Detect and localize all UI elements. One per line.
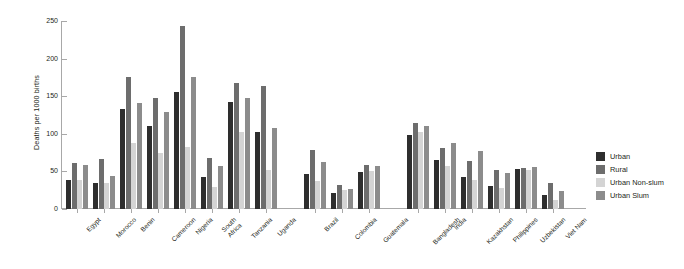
bar-egypt-rural [72,163,77,209]
bar-tanzania-urban-non-slum [239,132,244,209]
bar-nigeria-urban-non-slum [185,147,190,209]
x-tick-tanzania [239,209,240,213]
bar-egypt-urban [66,180,71,209]
country-bars-uganda [255,21,277,209]
bar-bangladesh-urban-non-slum [418,132,423,209]
country-bars-south-africa [201,21,223,209]
country-bars-guatemala [358,21,380,209]
bar-brazil-rural [310,150,315,209]
bar-cameroon-urban-slum [164,112,169,209]
country-bars-cameroon [147,21,169,209]
bar-colombia-urban [331,193,336,209]
x-label-benin: Benin [139,216,156,233]
bar-colombia-urban-slum [348,189,353,209]
country-bars-philippines [488,21,510,209]
bar-benin-rural [126,77,131,209]
x-label-uganda: Uganda [276,216,298,238]
bar-kazakhstan-rural [467,161,472,209]
bar-india-rural [440,148,445,209]
bar-india-urban [434,160,439,209]
bar-egypt-urban-slum [83,165,88,209]
legend-item-rural: Rural [596,163,664,175]
plot-area [62,21,586,209]
x-tick-nigeria [185,209,186,213]
bar-uzbekistan-rural [521,168,526,209]
y-tick-label-200: 200 [30,55,58,62]
y-tick-label-50: 50 [30,167,58,174]
country-bars-uzbekistan [515,21,537,209]
country-bars-nigeria [174,21,196,209]
bar-bangladesh-urban [407,135,412,209]
country-bars-egypt [66,21,88,209]
x-label-guatemala: Guatemala [381,216,409,244]
bar-viet-nam-rural [548,183,553,209]
bar-kazakhstan-urban [461,177,466,209]
y-tick-label-250: 250 [30,17,58,24]
bar-tanzania-urban-slum [245,98,250,209]
x-tick-morocco [104,209,105,213]
x-label-south-africa: South Africa [220,216,243,239]
bar-kazakhstan-urban-non-slum [472,180,477,209]
legend-item-urban: Urban [596,150,664,162]
bar-viet-nam-urban-non-slum [553,200,558,209]
country-bars-viet-nam [542,21,564,209]
bar-morocco-rural [99,159,104,209]
legend-swatch-urban [596,152,605,161]
bar-brazil-urban-non-slum [315,181,320,209]
x-label-colombia: Colombia [353,216,378,241]
x-tick-uzbekistan [526,209,527,213]
x-label-nigeria: Nigeria [194,216,214,236]
x-tick-benin [131,209,132,213]
bar-south-africa-urban-non-slum [212,187,217,209]
bar-morocco-urban-non-slum [104,183,109,209]
legend-swatch-urban-slum [596,191,605,200]
x-tick-egypt [77,209,78,213]
x-tick-brazil [315,209,316,213]
x-tick-south-africa [212,209,213,213]
bar-benin-urban-slum [137,103,142,209]
bar-chart: Deaths per 1000 births 050100150200250 E… [0,0,684,269]
y-tick-label-0: 0 [30,205,58,212]
bar-benin-urban [120,109,125,209]
bar-philippines-urban-slum [505,173,510,209]
bar-brazil-urban [304,174,309,209]
legend: Urban Rural Urban Non-slum Urban Slum [596,150,664,202]
x-label-brazil: Brazil [323,216,340,233]
bar-uganda-urban [255,132,260,209]
x-tick-colombia [342,209,343,213]
x-tick-viet-nam [553,209,554,213]
bar-viet-nam-urban-slum [559,191,564,209]
x-tick-cameroon [158,209,159,213]
legend-label-rural: Rural [610,165,628,174]
x-label-kazakhstan: Kazakhstan [485,216,515,246]
bar-nigeria-urban-slum [191,77,196,209]
bar-uganda-urban-slum [272,128,277,209]
x-label-uzbekistan: Uzbekistan [538,216,566,244]
bar-bangladesh-urban-slum [424,126,429,209]
country-bars-brazil [304,21,326,209]
legend-label-urban-non-slum: Urban Non-slum [610,178,664,187]
bar-guatemala-urban-non-slum [369,171,374,209]
bar-philippines-rural [494,170,499,209]
y-tick-0 [62,209,67,210]
bar-philippines-urban-non-slum [499,188,504,209]
bar-uzbekistan-urban [515,169,520,209]
legend-swatch-urban-non-slum [596,178,605,187]
bar-cameroon-urban-non-slum [158,153,163,209]
x-tick-guatemala [369,209,370,213]
bar-south-africa-urban-slum [218,166,223,209]
bar-tanzania-urban [228,102,233,209]
bar-benin-urban-non-slum [131,143,136,209]
y-tick-label-100: 100 [30,130,58,137]
bar-uzbekistan-urban-slum [532,167,537,209]
country-bars-colombia [331,21,353,209]
bar-nigeria-rural [180,26,185,209]
bar-india-urban-slum [451,143,456,209]
bar-india-urban-non-slum [445,166,450,209]
country-bars-tanzania [228,21,250,209]
bar-uganda-rural [261,86,266,209]
legend-label-urban: Urban [610,152,630,161]
bar-kazakhstan-urban-slum [478,151,483,209]
x-tick-uganda [266,209,267,213]
country-bars-india [434,21,456,209]
